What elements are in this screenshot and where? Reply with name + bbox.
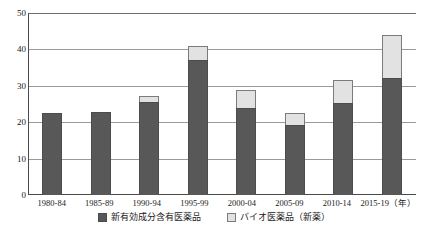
bar-segment-new-active-ingredient[interactable]	[91, 112, 111, 195]
bar-slot	[368, 13, 417, 195]
bar-column[interactable]	[188, 46, 208, 195]
y-tick-label-0: 0	[2, 191, 26, 200]
legend-label-0: 新有効成分含有医薬品	[111, 212, 201, 222]
bar-segment-new-active-ingredient[interactable]	[236, 108, 256, 195]
bar-column[interactable]	[139, 96, 159, 195]
bar-segment-new-active-ingredient[interactable]	[333, 103, 353, 195]
x-tick-label-2000-04: 2000-04	[218, 197, 266, 211]
bar-slot	[174, 13, 223, 195]
bar-slot	[28, 13, 77, 195]
x-tick-label-1995-99: 1995-99	[171, 197, 219, 211]
x-axis-unit-label: （年）	[389, 198, 416, 208]
chart-legend: 新有効成分含有医薬品 バイオ医薬品（新薬）	[0, 212, 427, 222]
y-tick-label-40: 40	[2, 45, 26, 54]
light-square-icon	[227, 213, 236, 222]
x-tick-label-2010-14: 2010-14	[313, 197, 361, 211]
x-tick-label-2005-09: 2005-09	[266, 197, 314, 211]
bar-column[interactable]	[382, 35, 402, 195]
stacked-bar-chart: 50 40 30 20 10 0 1980-841985-891990-9419…	[0, 0, 427, 230]
bars-layer	[28, 13, 416, 195]
y-tick-label-30: 30	[2, 81, 26, 90]
y-tick-label-50: 50	[2, 9, 26, 18]
x-tick-label-1990-94: 1990-94	[123, 197, 171, 211]
y-axis: 50 40 30 20 10 0	[0, 13, 26, 195]
y-tick-label-10: 10	[2, 154, 26, 163]
bar-segment-biopharmaceutical[interactable]	[285, 113, 305, 125]
bar-column[interactable]	[42, 113, 62, 195]
x-tick-label-1985-89: 1985-89	[76, 197, 124, 211]
dark-square-icon	[98, 213, 107, 222]
bar-column[interactable]	[91, 112, 111, 195]
bar-segment-new-active-ingredient[interactable]	[139, 102, 159, 195]
bar-column[interactable]	[285, 113, 305, 195]
bar-segment-biopharmaceutical[interactable]	[382, 35, 402, 78]
x-tick-label-2015-19: 2015-19（年）	[361, 197, 416, 211]
legend-item-new-active-ingredient[interactable]: 新有効成分含有医薬品	[98, 212, 201, 222]
bar-segment-new-active-ingredient[interactable]	[382, 78, 402, 195]
bar-segment-new-active-ingredient[interactable]	[42, 113, 62, 195]
legend-item-biopharmaceutical[interactable]: バイオ医薬品（新薬）	[227, 212, 330, 222]
bar-segment-biopharmaceutical[interactable]	[333, 80, 353, 103]
bar-slot	[77, 13, 126, 195]
legend-label-1: バイオ医薬品（新薬）	[240, 212, 330, 222]
bar-slot	[125, 13, 174, 195]
bar-segment-biopharmaceutical[interactable]	[236, 90, 256, 107]
x-axis: 1980-841985-891990-941995-992000-042005-…	[28, 197, 416, 211]
bar-segment-new-active-ingredient[interactable]	[188, 60, 208, 195]
bar-column[interactable]	[333, 80, 353, 195]
bar-column[interactable]	[236, 90, 256, 195]
bar-slot	[271, 13, 320, 195]
bar-slot	[222, 13, 271, 195]
bar-segment-new-active-ingredient[interactable]	[285, 125, 305, 195]
bar-slot	[319, 13, 368, 195]
y-tick-label-20: 20	[2, 118, 26, 127]
x-tick-label-1980-84: 1980-84	[28, 197, 76, 211]
bar-segment-biopharmaceutical[interactable]	[188, 46, 208, 61]
